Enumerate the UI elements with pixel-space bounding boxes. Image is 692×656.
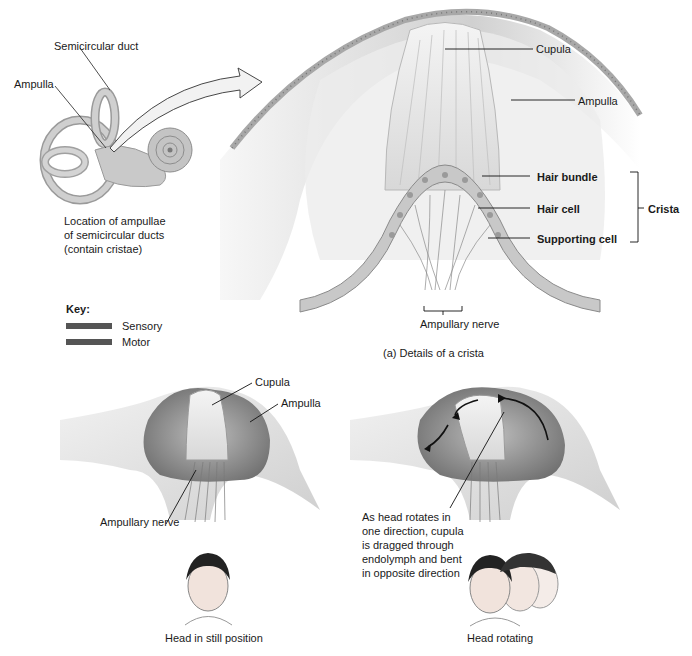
head-rotating-illustration — [468, 553, 558, 626]
annotation-line: in opposite direction — [362, 566, 464, 580]
label-ampulla-still: Ampulla — [281, 397, 321, 410]
label-supporting-cell: Supporting cell — [537, 233, 617, 246]
caption-line: (contain cristae) — [64, 242, 166, 256]
caption-line: of semicircular ducts — [64, 228, 166, 242]
crista-caption: (a) Details of a crista — [383, 347, 484, 360]
rotating-caption: Head rotating — [467, 632, 533, 645]
label-semicircular-duct: Semicircular duct — [54, 40, 138, 53]
label-cupula: Cupula — [536, 43, 571, 56]
annotation-line: As head rotates in — [362, 510, 464, 524]
annotation-line: endolymph and bent — [362, 552, 464, 566]
head-still-illustration — [185, 553, 232, 625]
label-ampullary-nerve: Ampullary nerve — [420, 318, 499, 331]
label-hair-cell: Hair cell — [537, 203, 580, 216]
key-swatch-motor — [66, 339, 112, 345]
annotation-line: one direction, cupula — [362, 524, 464, 538]
rotation-annotation: As head rotates in one direction, cupula… — [362, 510, 464, 580]
ear-inset-caption: Location of ampullae of semicircular duc… — [64, 214, 166, 256]
key-label-motor: Motor — [122, 336, 150, 349]
annotation-line: is dragged through — [362, 538, 464, 552]
ampulla-rotating-illustration — [350, 387, 620, 522]
label-cupula-still: Cupula — [255, 376, 290, 389]
key-swatch-sensory — [66, 323, 112, 329]
still-caption: Head in still position — [165, 632, 263, 645]
caption-line: Location of ampullae — [64, 214, 166, 228]
label-hair-bundle: Hair bundle — [537, 171, 598, 184]
key-title: Key: — [66, 303, 90, 316]
key-label-sensory: Sensory — [122, 320, 162, 333]
label-ampullary-nerve-still: Ampullary nerve — [100, 516, 179, 529]
label-ampulla-inset: Ampulla — [14, 78, 54, 91]
crista-illustration — [220, 12, 644, 315]
label-crista: Crista — [648, 203, 679, 216]
label-ampulla: Ampulla — [578, 95, 618, 108]
